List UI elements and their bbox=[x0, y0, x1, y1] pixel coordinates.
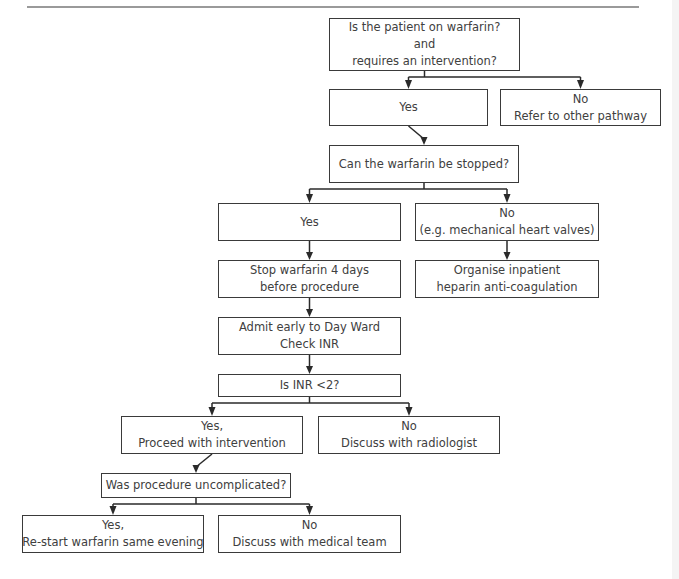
arrow-head bbox=[306, 252, 313, 260]
node-yes-4: Yes, Re-start warfarin same evening bbox=[22, 515, 204, 553]
top-rule bbox=[27, 6, 639, 8]
node-text: Discuss with medical team bbox=[232, 534, 386, 551]
node-text: Yes bbox=[300, 214, 319, 231]
node-no-2: No (e.g. mechanical heart valves) bbox=[415, 203, 599, 241]
node-yes-2: Yes bbox=[218, 203, 401, 241]
node-no-1: No Refer to other pathway bbox=[500, 89, 661, 126]
node-inr-check: Is INR <2? bbox=[218, 374, 401, 397]
node-stop-warfarin: Stop warfarin 4 days before procedure bbox=[218, 260, 401, 298]
node-text: No bbox=[302, 517, 318, 534]
connector-line bbox=[196, 454, 212, 467]
node-text: (e.g. mechanical heart valves) bbox=[419, 222, 594, 239]
node-can-stop: Can the warfarin be stopped? bbox=[329, 145, 519, 183]
node-text: Is INR <2? bbox=[280, 377, 340, 394]
node-text: Stop warfarin 4 days bbox=[250, 262, 369, 279]
node-text: Proceed with intervention bbox=[138, 435, 286, 452]
arrow-head bbox=[504, 252, 511, 260]
node-text: Check INR bbox=[280, 336, 339, 353]
node-text: before procedure bbox=[260, 279, 359, 296]
arrow-head bbox=[577, 80, 584, 89]
arrow-head bbox=[306, 194, 313, 203]
node-text: Is the patient on warfarin? bbox=[349, 19, 501, 36]
node-text: Can the warfarin be stopped? bbox=[339, 156, 509, 173]
node-text: No bbox=[573, 91, 589, 108]
node-text: Yes, bbox=[201, 418, 223, 435]
connector-line bbox=[409, 126, 425, 139]
arrow-head bbox=[504, 194, 511, 203]
node-text: Organise inpatient bbox=[454, 262, 561, 279]
arrow-head bbox=[306, 309, 313, 317]
node-text: Yes bbox=[399, 99, 418, 116]
arrow-head bbox=[406, 407, 413, 416]
node-text: No bbox=[401, 418, 417, 435]
node-text: Discuss with radiologist bbox=[341, 435, 477, 452]
node-start: Is the patient on warfarin? and requires… bbox=[329, 18, 520, 71]
node-text: and bbox=[414, 36, 436, 53]
page-edge bbox=[672, 0, 679, 579]
node-text: Admit early to Day Ward bbox=[239, 319, 380, 336]
node-text: Re-start warfarin same evening bbox=[22, 534, 203, 551]
arrow-head bbox=[421, 137, 428, 145]
node-text: Refer to other pathway bbox=[514, 108, 647, 125]
node-no-3: No Discuss with radiologist bbox=[318, 416, 500, 454]
node-admit: Admit early to Day Ward Check INR bbox=[218, 317, 401, 355]
arrow-head bbox=[193, 465, 200, 473]
node-yes-3: Yes, Proceed with intervention bbox=[121, 416, 303, 454]
node-text: No bbox=[499, 205, 515, 222]
node-no-4: No Discuss with medical team bbox=[218, 515, 401, 553]
node-was-uncomplicated: Was procedure uncomplicated? bbox=[101, 473, 291, 498]
arrow-head bbox=[306, 366, 313, 374]
arrow-head bbox=[306, 506, 313, 515]
node-text: Was procedure uncomplicated? bbox=[106, 477, 287, 494]
node-text: Yes, bbox=[102, 517, 124, 534]
node-text: heparin anti-coagulation bbox=[436, 279, 577, 296]
node-text: requires an intervention? bbox=[352, 53, 497, 70]
arrow-head bbox=[110, 506, 117, 515]
arrow-head bbox=[405, 80, 412, 89]
node-organise-heparin: Organise inpatient heparin anti-coagulat… bbox=[415, 260, 599, 298]
arrow-head bbox=[209, 407, 216, 416]
node-yes-1: Yes bbox=[329, 89, 488, 126]
